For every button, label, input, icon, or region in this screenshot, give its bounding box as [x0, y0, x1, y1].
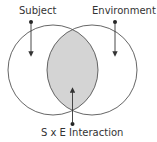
environment-label: Environment — [92, 6, 156, 16]
subject-pointer — [29, 20, 33, 54]
environment-pointer — [113, 20, 117, 54]
overlap-region — [47, 25, 137, 115]
interaction-label: S x E Interaction — [41, 128, 123, 138]
venn-diagram — [0, 0, 157, 142]
subject-label: Subject — [19, 6, 56, 16]
